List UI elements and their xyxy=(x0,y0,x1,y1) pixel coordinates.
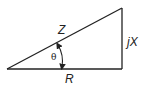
label-theta: θ xyxy=(51,53,56,62)
label-jx: jX xyxy=(127,36,138,48)
label-z: Z xyxy=(58,24,65,36)
label-r: R xyxy=(65,73,74,85)
angle-arc xyxy=(58,45,63,67)
hypotenuse-z xyxy=(7,8,122,69)
